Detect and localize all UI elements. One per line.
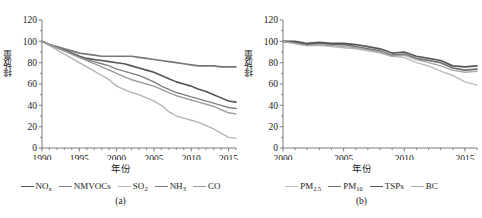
legend-item-co: CO xyxy=(193,181,221,191)
legend-line-swatch xyxy=(328,186,341,187)
svg-text:120: 120 xyxy=(264,15,279,25)
svg-text:2000: 2000 xyxy=(274,154,293,160)
legend-line-swatch xyxy=(118,186,131,187)
legend-item-bc: BC xyxy=(411,181,438,191)
svg-text:20: 20 xyxy=(269,122,279,132)
panel-caption-b: (b) xyxy=(241,196,482,206)
legend-line-swatch xyxy=(59,186,72,187)
legend-line-swatch xyxy=(21,186,34,187)
legend-label: CO xyxy=(208,181,221,191)
svg-text:0: 0 xyxy=(273,143,278,153)
svg-text:2015: 2015 xyxy=(219,154,238,160)
legend-a: NOxNMVOCsSO2NH3CO xyxy=(0,181,241,191)
svg-text:0: 0 xyxy=(32,143,37,153)
legend-item-tsps: TSPs xyxy=(370,181,404,191)
svg-text:2010: 2010 xyxy=(182,154,201,160)
legend-b: PM2.5PM10TSPsBC xyxy=(241,181,482,191)
legend-line-swatch xyxy=(193,186,206,187)
legend-item-pm10: PM10 xyxy=(328,181,363,191)
svg-text:2015: 2015 xyxy=(455,154,474,160)
plot-area-b: 0204060801001202000200520102015 xyxy=(241,0,482,160)
svg-text:100: 100 xyxy=(264,37,279,47)
legend-label: SO2 xyxy=(133,181,148,191)
legend-label: TSPs xyxy=(385,181,404,191)
legend-item-so2: SO2 xyxy=(118,181,148,191)
legend-label: PM2.5 xyxy=(300,181,321,191)
panel-caption-a: (a) xyxy=(0,196,241,206)
legend-line-swatch xyxy=(411,186,424,187)
legend-item-pm25: PM2.5 xyxy=(285,181,321,191)
legend-label: NOx xyxy=(36,181,52,191)
legend-item-nh3: NH3 xyxy=(155,181,186,191)
svg-text:40: 40 xyxy=(28,101,38,111)
svg-text:80: 80 xyxy=(28,58,38,68)
svg-text:1990: 1990 xyxy=(33,154,52,160)
svg-text:100: 100 xyxy=(23,37,38,47)
legend-line-swatch xyxy=(370,186,383,187)
svg-text:40: 40 xyxy=(269,101,279,111)
legend-label: PM10 xyxy=(343,181,363,191)
legend-item-nmvocs: NMVOCs xyxy=(59,181,111,191)
legend-label: BC xyxy=(426,181,438,191)
chart-panel-a: 排放量 020406080100120199019952000200520102… xyxy=(0,0,241,218)
svg-text:120: 120 xyxy=(23,15,38,25)
legend-label: NH3 xyxy=(170,181,186,191)
legend-label: NMVOCs xyxy=(74,181,111,191)
svg-text:60: 60 xyxy=(269,79,279,89)
x-axis-label-b: 年份 xyxy=(241,161,482,175)
plot-area-a: 020406080100120199019952000200520102015 xyxy=(0,0,241,160)
legend-item-nox: NOx xyxy=(21,181,52,191)
svg-text:2000: 2000 xyxy=(107,154,126,160)
svg-text:2010: 2010 xyxy=(395,154,414,160)
figure-container: 排放量 020406080100120199019952000200520102… xyxy=(0,0,482,218)
chart-panel-b: 排放量 0204060801001202000200520102015 年份 P… xyxy=(241,0,482,218)
svg-text:1995: 1995 xyxy=(70,154,89,160)
x-axis-label-a: 年份 xyxy=(0,161,241,175)
svg-text:2005: 2005 xyxy=(334,154,353,160)
svg-text:80: 80 xyxy=(269,58,279,68)
svg-text:60: 60 xyxy=(28,79,38,89)
legend-line-swatch xyxy=(155,186,168,187)
svg-text:2005: 2005 xyxy=(144,154,163,160)
legend-line-swatch xyxy=(285,186,298,187)
svg-text:20: 20 xyxy=(28,122,38,132)
